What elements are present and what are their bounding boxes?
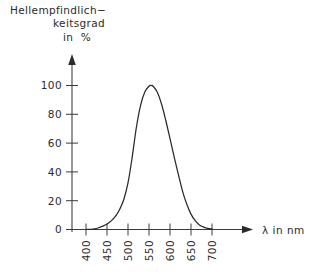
- x-axis-arrow-icon: [242, 226, 253, 233]
- chart-title-line-2: keitsgrad: [8, 17, 168, 30]
- luminosity-curve: [86, 85, 212, 229]
- x-tick-label-400: 400: [80, 240, 92, 261]
- y-tick-label-80: 80: [48, 108, 62, 120]
- x-tick-label-650: 650: [185, 240, 197, 261]
- x-tick-label-700: 700: [206, 240, 218, 261]
- x-axis-caption: λ in nm: [262, 224, 305, 236]
- x-tick-label-600: 600: [164, 240, 176, 261]
- y-tick-label-20: 20: [48, 195, 62, 207]
- x-tick-label-500: 500: [122, 240, 134, 261]
- x-tick-label-550: 550: [143, 240, 155, 261]
- chart-title-line-3: in %: [8, 31, 168, 44]
- chart-title-line-1: Hellempfindlich−: [8, 4, 168, 17]
- y-tick-label-100: 100: [41, 79, 62, 91]
- y-tick-label-60: 60: [48, 137, 62, 149]
- y-tick-label-40: 40: [48, 166, 62, 178]
- figure-container: Hellempfindlich− keitsgrad in % 0 20 40 …: [0, 0, 329, 274]
- y-axis-arrow-icon: [68, 54, 76, 65]
- x-tick-label-450: 450: [101, 240, 113, 261]
- y-tick-label-0: 0: [55, 223, 62, 235]
- chart-title: Hellempfindlich− keitsgrad in %: [8, 4, 168, 44]
